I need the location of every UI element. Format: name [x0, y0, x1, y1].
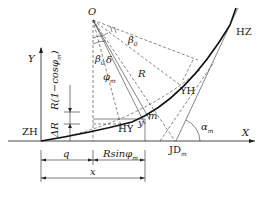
label-R: R [137, 68, 146, 79]
beta0-upper-arc [110, 26, 112, 32]
label-m: m [148, 110, 157, 121]
label-O: O [88, 6, 96, 17]
dim-arrow-icon [68, 124, 72, 128]
arrow-icon [41, 159, 46, 162]
y-axis-arrow-icon [39, 47, 43, 53]
label-beta0-lower: β0 [94, 53, 105, 66]
diagram-stage: O HZ YH HY ZH Y X JDm αm β0 β0 δ φm R y … [0, 0, 262, 197]
label-beta0-upper: β0 [127, 34, 138, 47]
label-Y: Y [28, 53, 36, 64]
label-q: q [63, 148, 69, 159]
label-delta-R: ΔR [49, 122, 60, 138]
label-phi-m: φm [103, 71, 116, 84]
transition-curve-diagram: O HZ YH HY ZH Y X JDm αm β0 β0 δ φm R y … [0, 0, 262, 197]
label-delta: δ [106, 54, 112, 65]
dim-arrow-icon [68, 108, 72, 112]
label-JD: JDm [168, 144, 187, 157]
label-R-1-cos: R(1−cosφm) [49, 50, 62, 111]
label-alpha-m: αm [201, 121, 214, 134]
x-axis-arrow-icon [249, 139, 255, 143]
arrow-icon [140, 159, 145, 162]
label-YH: YH [179, 85, 196, 96]
arrow-icon [93, 159, 98, 162]
label-HZ: HZ [236, 26, 252, 37]
arrow-icon [88, 159, 93, 162]
label-X: X [241, 127, 250, 138]
label-x: x [90, 166, 96, 177]
arrow-icon [140, 177, 145, 180]
label-ZH: ZH [22, 126, 38, 137]
alpha-arc [186, 120, 200, 141]
arrow-icon [41, 177, 46, 180]
beta0-upper-arc-2 [114, 27, 116, 33]
label-Rsin: Rsinφm [102, 148, 138, 161]
label-HY: HY [118, 123, 134, 134]
label-y: y [137, 117, 144, 128]
delta-arc [103, 33, 108, 36]
